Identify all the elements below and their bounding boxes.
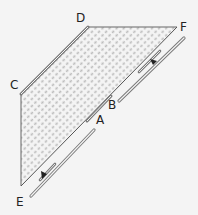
label-b: B [108,98,116,112]
label-a: A [96,113,105,127]
diagram-canvas: D F C E A B [0,0,198,215]
label-e: E [16,195,24,209]
label-d: D [76,11,85,25]
label-c: C [10,78,18,92]
label-f: F [180,20,187,34]
